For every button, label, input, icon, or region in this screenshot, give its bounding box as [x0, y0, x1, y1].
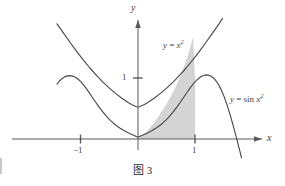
curve-sine-of-x-squared [57, 75, 242, 158]
curve-label-sine-equals: = [236, 94, 241, 104]
curve-label-sine-fn: sin [244, 94, 255, 104]
x-tick-label-minus-one: −1 [73, 146, 83, 155]
curve-label-sine-exponent: 2 [260, 92, 263, 99]
figure-caption: 图 3 [0, 161, 285, 177]
plot-canvas [0, 0, 285, 186]
x-tick-label-one: 1 [192, 146, 197, 155]
y-tick-label-one: 1 [122, 73, 127, 82]
y-axis-arrowhead [135, 20, 141, 28]
curve-label-sine-squared: y = sin x2 [230, 95, 264, 104]
curve-label-parabola-y: y [163, 40, 167, 50]
x-axis-arrowhead [254, 136, 262, 142]
curve-label-parabola: y = x2 [163, 41, 184, 50]
curve-label-parabola-exponent: 2 [181, 38, 184, 45]
figure-container: y x −1 1 1 y = x2 y = sin x2 图 3 [0, 0, 285, 186]
page-edge-artifact [0, 158, 2, 174]
curve-label-parabola-equals: = [169, 40, 174, 50]
curve-label-sine-y: y [230, 94, 234, 104]
curve-parabola [57, 18, 223, 107]
x-axis-label: x [267, 133, 271, 143]
y-axis-label: y [131, 3, 135, 13]
